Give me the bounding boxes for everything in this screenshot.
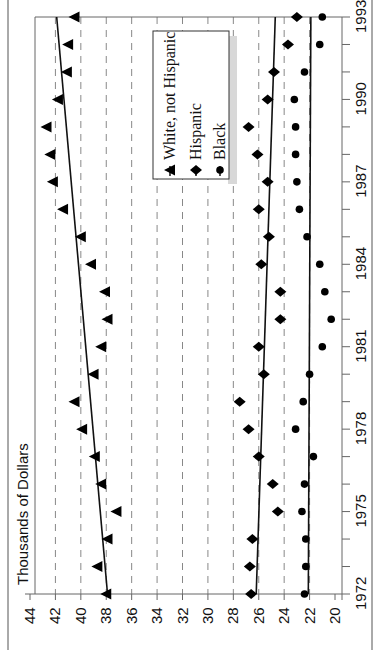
trend-line-white-not-hispanic — [57, 17, 108, 594]
point-hispanic — [258, 369, 270, 379]
y-tick-label: 20 — [326, 607, 343, 624]
income-chart: 2022242628303234363840424419721975197819… — [0, 0, 380, 658]
point-hispanic — [262, 177, 274, 187]
point-white-not-hispanic — [91, 561, 102, 572]
point-white-not-hispanic — [68, 12, 79, 23]
x-tick-label: 1975 — [352, 494, 369, 527]
point-black — [321, 288, 329, 296]
point-hispanic — [291, 12, 303, 22]
y-tick-label: 30 — [199, 607, 216, 624]
point-white-not-hispanic — [95, 341, 106, 352]
x-tick-label: 1984 — [352, 247, 369, 280]
x-tick-label: 1987 — [352, 164, 369, 197]
point-black — [318, 343, 326, 351]
legend-label-hispanic: Hispanic — [187, 103, 205, 160]
point-hispanic — [255, 259, 267, 269]
point-black — [291, 96, 299, 104]
legend-label-white-not-hispanic: White, not Hispanic — [161, 32, 179, 160]
legend-marker-black — [216, 166, 224, 174]
point-black — [302, 535, 310, 543]
x-tick-label: 1990 — [352, 82, 369, 115]
y-tick-label: 44 — [21, 607, 38, 624]
y-tick-label: 34 — [148, 607, 165, 624]
point-black — [293, 178, 301, 186]
y-tick-label: 40 — [72, 607, 89, 624]
point-black — [301, 480, 309, 488]
point-white-not-hispanic — [52, 94, 63, 105]
y-tick-label: 24 — [275, 607, 292, 624]
point-hispanic — [246, 534, 258, 544]
point-black — [303, 233, 311, 241]
y-axis-title: Thousands of Dollars — [14, 443, 31, 585]
point-black — [318, 13, 326, 21]
point-white-not-hispanic — [76, 424, 87, 435]
y-tick-label: 26 — [250, 607, 267, 624]
x-tick-label: 1972 — [352, 577, 369, 610]
x-tick-label: 1978 — [352, 412, 369, 445]
point-white-not-hispanic — [68, 396, 79, 407]
point-black — [298, 508, 306, 516]
point-black — [292, 151, 300, 159]
point-white-not-hispanic — [41, 121, 52, 132]
point-hispanic — [243, 424, 255, 434]
point-hispanic — [253, 204, 265, 214]
point-hispanic — [253, 452, 265, 462]
point-white-not-hispanic — [47, 176, 58, 187]
point-black — [302, 563, 310, 571]
point-white-not-hispanic — [102, 314, 113, 325]
point-hispanic — [253, 342, 265, 352]
point-black — [301, 590, 309, 598]
point-hispanic — [268, 67, 280, 77]
point-white-not-hispanic — [44, 149, 55, 160]
x-tick-label: 1993 — [352, 0, 369, 33]
point-white-not-hispanic — [99, 286, 110, 297]
legend: White, not HispanicHispanicBlack — [153, 31, 237, 184]
point-hispanic — [267, 479, 279, 489]
x-tick-label: 1981 — [352, 329, 369, 362]
point-black — [306, 370, 314, 378]
legend-label-black: Black — [211, 123, 228, 160]
point-black — [316, 260, 324, 268]
point-hispanic — [244, 562, 256, 572]
point-hispanic — [243, 122, 255, 132]
point-black — [299, 398, 307, 406]
point-black — [327, 315, 335, 323]
point-white-not-hispanic — [62, 39, 73, 50]
point-hispanic — [272, 507, 284, 517]
y-tick-label: 38 — [97, 607, 114, 624]
point-hispanic — [263, 232, 275, 242]
point-black — [301, 68, 309, 76]
point-hispanic — [234, 397, 246, 407]
y-tick-label: 42 — [46, 607, 63, 624]
y-tick-label: 22 — [301, 607, 318, 624]
point-black — [292, 425, 300, 433]
point-white-not-hispanic — [57, 204, 68, 215]
point-black — [316, 41, 324, 49]
point-black — [310, 453, 318, 461]
point-hispanic — [251, 149, 263, 159]
point-white-not-hispanic — [110, 506, 121, 517]
point-white-not-hispanic — [85, 259, 96, 270]
y-tick-label: 36 — [123, 607, 140, 624]
trend-line-black — [308, 17, 311, 594]
y-tick-label: 32 — [174, 607, 191, 624]
y-tick-label: 28 — [224, 607, 241, 624]
point-black — [296, 206, 304, 214]
point-hispanic — [245, 589, 257, 599]
point-black — [292, 123, 300, 131]
